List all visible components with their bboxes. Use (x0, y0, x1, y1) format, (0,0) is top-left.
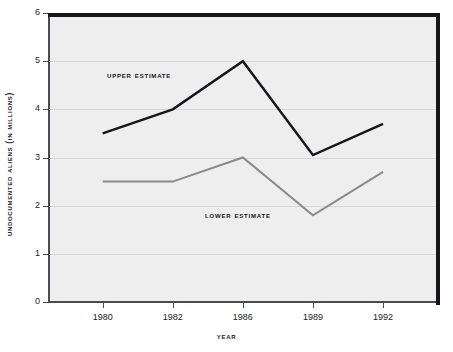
plot-border-right (436, 13, 440, 305)
chart-container: Undocumented Aliens (in Millions) 012345… (0, 0, 453, 352)
line-lower-estimate (103, 158, 383, 216)
series-label-lower-estimate: Lower Estimate (205, 210, 271, 220)
series-group (0, 0, 453, 352)
series-label-upper-estimate: Upper Estimate (107, 70, 171, 80)
x-axis-title: Year (0, 331, 453, 341)
plot-border-top (48, 13, 440, 17)
